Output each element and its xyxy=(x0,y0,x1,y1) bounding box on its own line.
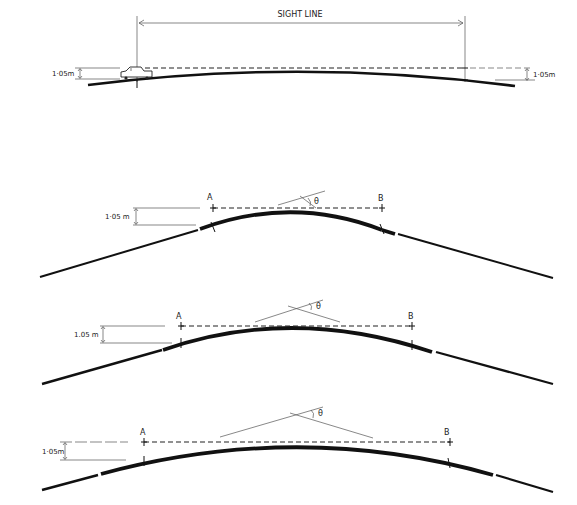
panel-flat-crest: A B θ 1·05m xyxy=(42,407,553,492)
panel-medium-crest: A B θ 1.05 m xyxy=(42,300,553,384)
crest-curve xyxy=(200,212,382,230)
crest-curve xyxy=(163,328,432,352)
diagram-canvas: SIGHT LINE 1·05m 1·05m xyxy=(0,0,577,505)
angle-theta-label: θ xyxy=(314,197,319,206)
panel-sharp-crest: A B θ 1·05 m xyxy=(40,191,553,278)
point-b-label: B xyxy=(378,194,384,203)
height-label-left: 1·05m xyxy=(52,70,75,78)
height-label: 1·05m xyxy=(42,448,65,456)
height-label-right: 1·05m xyxy=(533,71,556,79)
crest-curve xyxy=(101,447,493,475)
height-label: 1·05 m xyxy=(105,213,130,221)
point-a-label: A xyxy=(140,428,146,437)
car-icon xyxy=(121,67,152,80)
top-panel: SIGHT LINE 1·05m 1·05m xyxy=(52,10,556,88)
angle-theta-label: θ xyxy=(316,302,321,311)
point-a-label: A xyxy=(176,312,182,321)
height-label: 1.05 m xyxy=(74,331,99,339)
point-b-label: B xyxy=(408,312,414,321)
angle-theta-label: θ xyxy=(318,409,323,418)
sight-line-label: SIGHT LINE xyxy=(278,10,323,19)
point-a-label: A xyxy=(207,193,213,202)
point-b-label: B xyxy=(444,428,450,437)
